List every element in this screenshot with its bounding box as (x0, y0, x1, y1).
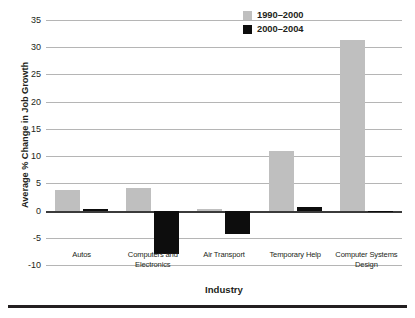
x-axis-tick-line: Temporary Help (260, 250, 331, 260)
y-axis-tick-label: -10 (13, 260, 41, 270)
plot-area: 35302520151050-5-10 (46, 20, 402, 265)
y-axis-tick-label: 25 (13, 69, 41, 79)
x-axis-tick-label: Autos (46, 250, 117, 260)
bar (83, 209, 108, 211)
y-axis-tick-label: 30 (13, 42, 41, 52)
x-axis-tick-line: Computer Systems (331, 250, 402, 260)
bar-group (260, 20, 331, 265)
y-axis-tick-label: 35 (13, 15, 41, 25)
bar-group (46, 20, 117, 265)
x-axis-tick-line: Electronics (117, 260, 188, 270)
y-axis-tick-label: 20 (13, 97, 41, 107)
x-axis-tick-label: Air Transport (188, 250, 259, 260)
legend-swatch-icon (243, 25, 252, 34)
legend-item[interactable]: 2000–2004 (243, 24, 306, 34)
x-axis-tick-label: Computers andElectronics (117, 250, 188, 269)
bar (55, 190, 80, 211)
bar-group (188, 20, 259, 265)
chart-figure: Average % Change in Job Growth 353025201… (0, 0, 415, 318)
x-axis-tick-line: Autos (46, 250, 117, 260)
bar-group (117, 20, 188, 265)
x-axis-tick-line: Design (331, 260, 402, 270)
bottom-rule (8, 305, 407, 308)
x-axis-title: Industry (46, 284, 402, 295)
x-axis-tick-line: Air Transport (188, 250, 259, 260)
x-axis-tick-line: Computers and (117, 250, 188, 260)
legend-item[interactable]: 1990–2000 (243, 10, 306, 20)
bar (368, 211, 393, 213)
bar-series-container (46, 20, 402, 265)
legend-label: 2000–2004 (257, 24, 304, 34)
bar (225, 211, 250, 234)
legend: 1990–20002000–2004 (243, 10, 306, 38)
x-axis-tick-label: Temporary Help (260, 250, 331, 260)
bar (297, 207, 322, 211)
bar-group (331, 20, 402, 265)
y-axis-tick-label: 15 (13, 124, 41, 134)
bar (126, 188, 151, 210)
bar (340, 40, 365, 210)
legend-swatch-icon (243, 11, 252, 20)
x-axis-tick-label: Computer SystemsDesign (331, 250, 402, 269)
y-axis-tick-label: 10 (13, 151, 41, 161)
bar (154, 211, 179, 255)
y-axis-tick-label: 0 (13, 206, 41, 216)
bar (197, 209, 222, 211)
bar (269, 151, 294, 211)
y-axis-tick-label: -5 (13, 233, 41, 243)
legend-label: 1990–2000 (257, 10, 304, 20)
y-axis-tick-label: 5 (13, 178, 41, 188)
